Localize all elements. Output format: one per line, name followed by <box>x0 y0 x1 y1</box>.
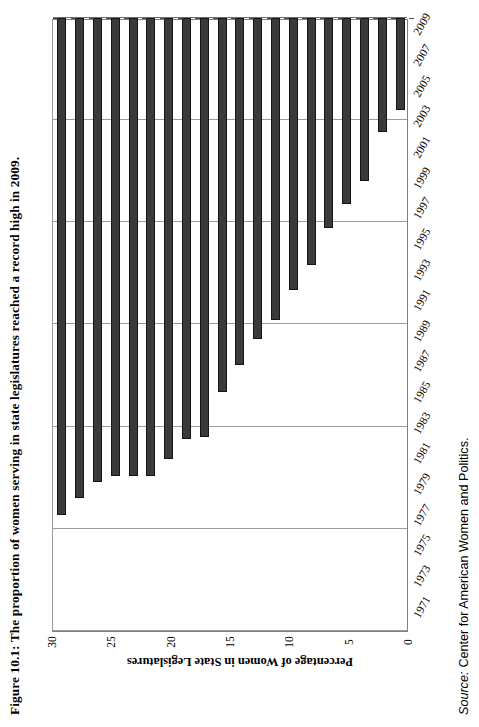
year-label-2009: 2009 <box>411 11 433 37</box>
bar-2005 <box>93 18 102 482</box>
year-label-2003: 2003 <box>411 103 433 129</box>
gridline-20 <box>53 426 407 427</box>
year-label-1995: 1995 <box>411 226 433 252</box>
category-tick <box>391 18 396 19</box>
bar-2003 <box>111 18 120 476</box>
year-label-1979: 1979 <box>411 471 433 497</box>
bar-1991 <box>218 18 227 392</box>
bar-1989 <box>235 18 244 365</box>
category-tick <box>124 18 129 19</box>
category-tick <box>195 18 200 19</box>
value-tick-10: 10 <box>283 631 295 653</box>
gridline-5 <box>53 119 407 120</box>
value-tick-5: 5 <box>343 631 355 653</box>
year-label-2007: 2007 <box>411 42 433 68</box>
bar-1985 <box>271 18 280 320</box>
year-label-1983: 1983 <box>411 410 433 436</box>
value-axis-title: Percentage of Women in State Legislature… <box>82 654 398 669</box>
value-tick-30: 30 <box>46 631 58 653</box>
category-tick <box>213 18 218 19</box>
category-tick <box>142 18 147 19</box>
bar-1995 <box>182 18 191 439</box>
bar-2009 <box>57 18 66 515</box>
category-tick <box>106 18 111 19</box>
category-tick <box>267 18 272 19</box>
bar-1993 <box>200 18 209 437</box>
gridline-25 <box>53 528 407 529</box>
figure-caption: Figure 10.1: The proportion of women ser… <box>0 0 30 727</box>
category-tick <box>373 18 378 19</box>
value-tick-0: 0 <box>402 631 414 653</box>
category-tick <box>320 18 325 19</box>
bar-1979 <box>324 18 333 228</box>
category-tick <box>409 18 414 19</box>
value-tick-15: 15 <box>224 631 236 653</box>
bar-1971 <box>396 18 405 110</box>
bar-1983 <box>289 18 298 290</box>
bar-1987 <box>253 18 262 339</box>
category-tick <box>231 18 236 19</box>
year-label-1993: 1993 <box>411 257 433 283</box>
category-tick <box>160 18 165 19</box>
source-note: Source: Center for American Women and Po… <box>449 0 479 727</box>
year-label-1999: 1999 <box>411 165 433 191</box>
year-label-1989: 1989 <box>411 318 433 344</box>
bar-1973 <box>378 18 387 132</box>
gridline-15 <box>53 324 407 325</box>
category-tick <box>178 18 183 19</box>
year-label-1977: 1977 <box>411 502 433 528</box>
category-tick <box>249 18 254 19</box>
source-text: Center for American Women and Politics. <box>457 438 471 668</box>
category-tick <box>356 18 361 19</box>
value-tick-25: 25 <box>105 631 117 653</box>
year-label-1973: 1973 <box>411 563 433 589</box>
year-label-1975: 1975 <box>411 532 433 558</box>
bar-1977 <box>342 18 351 204</box>
category-tick <box>284 18 289 19</box>
category-tick <box>302 18 307 19</box>
value-tick-20: 20 <box>165 631 177 653</box>
plot-frame <box>52 19 408 632</box>
category-tick <box>338 18 343 19</box>
year-label-1971: 1971 <box>411 594 433 620</box>
bar-2001 <box>129 18 138 476</box>
category-tick <box>71 18 76 19</box>
gridline-10 <box>53 221 407 222</box>
year-label-1991: 1991 <box>411 287 433 313</box>
source-label: Source: <box>457 672 471 715</box>
bar-chart <box>52 19 408 632</box>
bar-1997 <box>164 18 173 459</box>
bar-2007 <box>75 18 84 498</box>
year-label-2001: 2001 <box>411 134 433 160</box>
year-label-1987: 1987 <box>411 349 433 375</box>
category-tick <box>89 18 94 19</box>
bar-1975 <box>360 18 369 181</box>
year-label-1981: 1981 <box>411 441 433 467</box>
bar-1981 <box>307 18 316 265</box>
category-tick <box>53 18 58 19</box>
year-label-2005: 2005 <box>411 73 433 99</box>
year-label-1985: 1985 <box>411 379 433 405</box>
bar-1999 <box>146 18 155 476</box>
year-label-1997: 1997 <box>411 195 433 221</box>
